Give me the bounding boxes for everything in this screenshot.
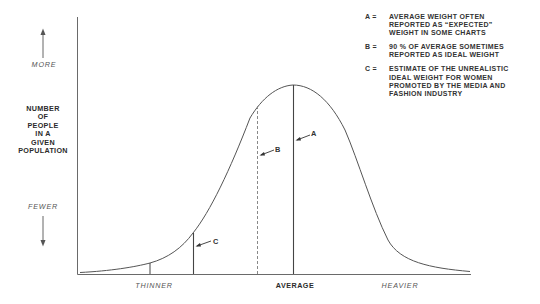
arrow-up-icon — [41, 29, 46, 59]
pointer-arrow-a-icon — [296, 135, 311, 141]
pointer-arrow-c-icon — [196, 241, 212, 247]
legend-key: C = — [365, 65, 389, 97]
legend-key: A = — [365, 13, 389, 37]
legend-text: ESTIMATE OF THE UNREALISTIC IDEAL WEIGHT… — [389, 65, 509, 97]
legend-key: B = — [365, 43, 389, 59]
legend-text: AVERAGE WEIGHT OFTEN REPORTED AS “EXPECT… — [389, 13, 493, 37]
marker-b-label: B — [275, 145, 280, 154]
x-axis-average-label: AVERAGE — [266, 281, 324, 290]
pointer-arrow-b-icon — [260, 150, 275, 156]
y-title-line: POPULATION — [14, 147, 72, 155]
arrow-down-icon — [41, 216, 46, 247]
y-axis-more-label: MORE — [24, 60, 64, 69]
legend-item-b: B = 90 % OF AVERAGE SOMETIMES REPORTED A… — [365, 43, 540, 59]
x-axis-thinner-label: THINNER — [124, 281, 184, 290]
legend-item-c: C = ESTIMATE OF THE UNREALISTIC IDEAL WE… — [365, 65, 540, 97]
y-axis-fewer-label: FEWER — [22, 202, 64, 211]
legend: A = AVERAGE WEIGHT OFTEN REPORTED AS “EX… — [365, 13, 540, 104]
distribution-curve — [80, 85, 470, 273]
marker-c-label: C — [213, 237, 218, 246]
marker-a-label: A — [311, 129, 316, 138]
x-axis-heavier-label: HEAVIER — [370, 281, 430, 290]
legend-text: 90 % OF AVERAGE SOMETIMES REPORTED AS ID… — [389, 43, 504, 59]
legend-item-a: A = AVERAGE WEIGHT OFTEN REPORTED AS “EX… — [365, 13, 540, 37]
y-axis-title: NUMBER OF PEOPLE IN A GIVEN POPULATION — [14, 105, 72, 155]
